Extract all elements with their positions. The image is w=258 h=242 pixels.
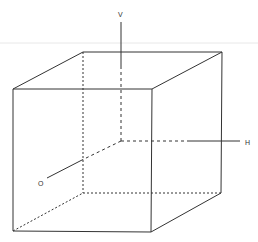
o-axis-solid	[47, 160, 82, 178]
cube-back-right-vertical-edge	[221, 52, 222, 193]
cube-axes-diagram: V H O	[0, 0, 258, 242]
cube	[13, 52, 222, 232]
o-axis-dashed	[82, 141, 121, 160]
o-axis-label: O	[38, 180, 44, 187]
cube-hidden-bottom-left-edge	[13, 193, 83, 231]
cube-top-left-edge	[13, 52, 83, 89]
h-axis-label: H	[245, 139, 250, 146]
cube-bottom-right-edge	[151, 193, 221, 232]
cube-top-right-edge	[152, 52, 222, 89]
v-axis-label: V	[118, 11, 123, 18]
axes	[47, 22, 240, 178]
